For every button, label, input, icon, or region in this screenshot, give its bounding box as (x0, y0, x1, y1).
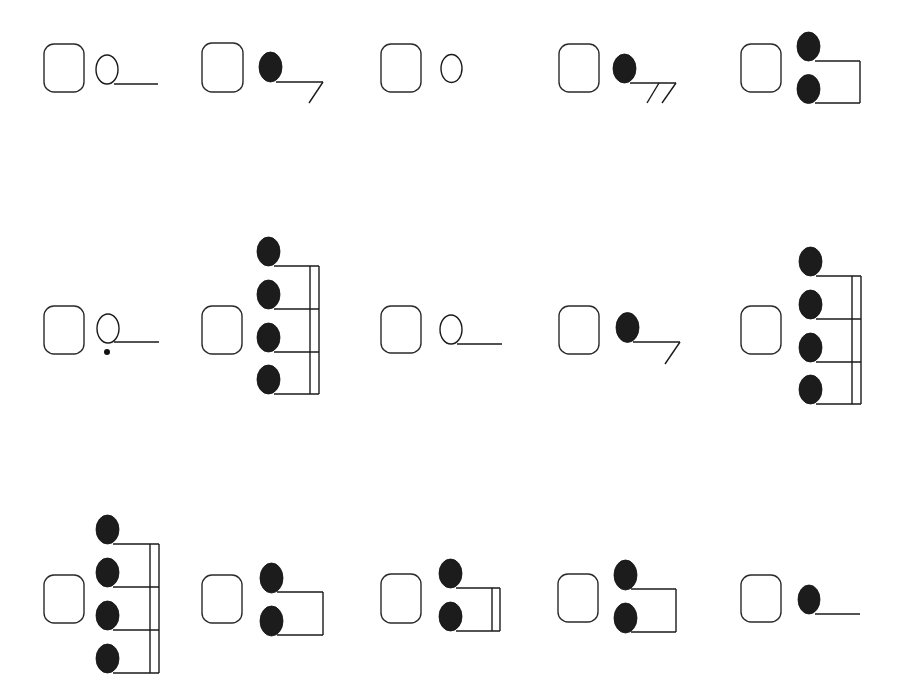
answer-box[interactable] (202, 43, 243, 92)
filled-notehead-icon (96, 558, 119, 587)
answer-box[interactable] (559, 44, 599, 92)
answer-box[interactable] (741, 44, 781, 92)
filled-notehead-icon (439, 602, 462, 631)
filled-notehead-icon (797, 32, 820, 61)
filled-notehead-icon (96, 515, 119, 544)
filled-notehead-icon (799, 333, 822, 362)
filled-notehead-icon (259, 52, 282, 82)
filled-notehead-icon (613, 54, 636, 83)
answer-box[interactable] (558, 574, 598, 622)
filled-notehead-icon (439, 559, 462, 588)
filled-notehead-icon (797, 75, 820, 104)
filled-notehead-icon (799, 375, 822, 404)
answer-box[interactable] (44, 306, 84, 354)
augmentation-dot-icon (104, 349, 110, 355)
filled-notehead-icon (257, 280, 280, 309)
rhythm-worksheet (0, 0, 898, 686)
filled-notehead-icon (614, 560, 637, 590)
filled-notehead-icon (798, 585, 820, 614)
filled-notehead-icon (257, 237, 280, 266)
filled-notehead-icon (260, 563, 283, 593)
filled-notehead-icon (260, 606, 283, 636)
filled-notehead-icon (614, 603, 637, 633)
answer-box[interactable] (381, 306, 421, 353)
filled-notehead-icon (799, 290, 822, 319)
filled-notehead-icon (257, 365, 280, 394)
filled-notehead-icon (257, 323, 280, 352)
answer-box[interactable] (202, 575, 242, 623)
filled-notehead-icon (616, 313, 639, 343)
answer-box[interactable] (381, 574, 421, 623)
answer-box[interactable] (44, 44, 84, 92)
answer-box[interactable] (741, 306, 781, 354)
answer-box[interactable] (202, 306, 242, 354)
filled-notehead-icon (96, 644, 119, 673)
filled-notehead-icon (799, 247, 822, 276)
answer-box[interactable] (381, 44, 421, 92)
answer-box[interactable] (559, 306, 599, 354)
answer-box[interactable] (44, 575, 84, 623)
answer-box[interactable] (741, 575, 781, 622)
filled-notehead-icon (96, 601, 119, 630)
